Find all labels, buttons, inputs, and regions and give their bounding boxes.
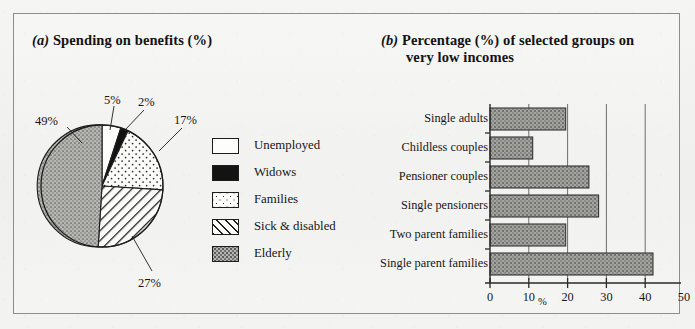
legend-swatch-widows: [212, 165, 239, 181]
bar-axis-tick-labels: 0 10 20 30 40 50: [366, 102, 681, 302]
legend-label-widows: Widows: [254, 165, 296, 180]
legend-swatch-sick-disabled: [212, 219, 239, 235]
x-tick-label-30: 30: [594, 290, 618, 305]
x-tick-label-20: 20: [556, 290, 580, 305]
pie-label-families: 17%: [174, 113, 197, 128]
pie-label-widows: 2%: [138, 95, 155, 110]
legend-swatch-elderly: [212, 246, 239, 262]
x-tick-label-50: 50: [672, 290, 695, 305]
pie-leader-widows: [125, 110, 144, 130]
pie-label-unemployed: 5%: [104, 93, 121, 108]
x-axis-unit-label: %: [538, 296, 547, 307]
pie-chart: 49% 5% 2% 17% 27%: [26, 86, 201, 271]
legend-item-widows: Widows: [212, 159, 336, 186]
legend-item-unemployed: Unemployed: [212, 132, 336, 159]
legend-label-sick-disabled: Sick & disabled: [254, 219, 336, 234]
pie-slice-elderly: [37, 125, 102, 247]
panel-b-bar-chart: (b) Percentage (%) of selected groups on…: [366, 14, 681, 313]
legend-label-elderly: Elderly: [254, 246, 292, 261]
panel-b-title-text-line2: very low incomes: [381, 49, 681, 66]
pie-leader-sick-disabled: [132, 236, 152, 271]
legend-item-elderly: Elderly: [212, 240, 336, 267]
pie-legend: Unemployed Widows Families Sick & disabl…: [212, 132, 336, 267]
panel-a-pie-chart: (a) Spending on benefits (%): [14, 14, 366, 313]
legend-swatch-families: [212, 192, 239, 208]
panel-b-tag: (b): [381, 32, 398, 48]
pie-label-sick-disabled: 27%: [138, 276, 161, 291]
panel-a-title-text: Spending on benefits (%): [53, 32, 212, 48]
x-tick-label-40: 40: [633, 290, 657, 305]
figure-frame: (a) Spending on benefits (%): [13, 13, 680, 314]
legend-item-families: Families: [212, 186, 336, 213]
pie-label-elderly: 49%: [35, 114, 58, 129]
figure-page: (a) Spending on benefits (%): [0, 0, 695, 329]
legend-item-sick-disabled: Sick & disabled: [212, 213, 336, 240]
pie-slice-sick-disabled: [98, 186, 163, 247]
pie-leader-families: [159, 128, 182, 151]
legend-label-unemployed: Unemployed: [254, 138, 320, 153]
panel-a-tag: (a): [32, 32, 49, 48]
panel-b-title: (b) Percentage (%) of selected groups on…: [381, 32, 681, 66]
x-tick-label-0: 0: [478, 290, 502, 305]
panel-b-title-text-line1: Percentage (%) of selected groups on: [402, 32, 634, 48]
bar-chart: Single adults Childless couples Pensione…: [366, 102, 681, 302]
legend-label-families: Families: [254, 192, 298, 207]
legend-swatch-unemployed: [212, 138, 239, 154]
panel-a-title: (a) Spending on benefits (%): [32, 32, 342, 49]
